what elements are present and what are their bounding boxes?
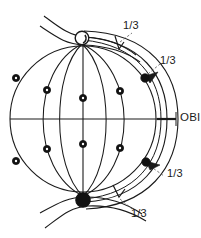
meridian-arc-left-outer bbox=[43, 44, 83, 196]
marker-dot-core bbox=[46, 89, 48, 91]
fraction-label-bottom: 1/3 bbox=[131, 208, 147, 219]
meridian-arc-left-inner bbox=[60, 44, 83, 196]
marker-dot bbox=[142, 158, 150, 166]
marker-dot-core bbox=[82, 143, 84, 145]
meridian-arc-right-outer bbox=[82, 44, 124, 196]
pole-bottom-marker bbox=[76, 193, 90, 207]
meridian-arc-right-inner bbox=[82, 44, 106, 196]
fraction-label-lower-right: 1/3 bbox=[167, 168, 183, 179]
obi-sphere-figure: OBI 1/3 1/3 1/3 1/3 bbox=[0, 0, 201, 238]
marker-dot-core bbox=[15, 160, 17, 162]
fraction-label-upper-right: 1/3 bbox=[160, 55, 176, 66]
fraction-label-top: 1/3 bbox=[123, 20, 139, 31]
marker-group bbox=[12, 74, 150, 166]
marker-dot-core bbox=[119, 90, 121, 92]
marker-dot-core bbox=[119, 147, 121, 149]
marker-dot-core bbox=[82, 97, 84, 99]
marker-dot-core bbox=[15, 77, 17, 79]
obi-label: OBI bbox=[180, 112, 200, 124]
figure-canvas bbox=[0, 0, 201, 238]
marker-dot-core bbox=[46, 148, 48, 150]
marker-dot bbox=[141, 74, 149, 82]
